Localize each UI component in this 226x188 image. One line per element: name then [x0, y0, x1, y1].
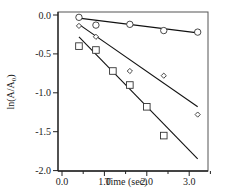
diamond-point [127, 68, 132, 73]
y-ticks: 0.0-0.5-1.0-1.5-2.0 [35, 10, 58, 177]
square-point [160, 132, 167, 139]
fit-line-squares [79, 37, 198, 159]
square-point [127, 82, 134, 89]
y-tick-label: -1.0 [35, 87, 51, 98]
square-point [110, 68, 117, 75]
fit-lines [79, 18, 198, 159]
circle-point [127, 21, 133, 27]
diamond-point [76, 23, 81, 28]
square-point [76, 43, 83, 50]
y-tick-label: 0.0 [39, 10, 52, 21]
data-points [76, 14, 201, 139]
diamond-point [195, 112, 200, 117]
x-tick-label: 3.0 [183, 176, 196, 187]
diamond-point [161, 73, 166, 78]
circle-point [76, 14, 82, 20]
circle-point [161, 27, 167, 33]
circle-point [194, 29, 200, 35]
square-point [93, 47, 100, 54]
chart: 0.0-0.5-1.0-1.5-2.0 0.01.02.03.0 Time (s… [0, 0, 226, 188]
y-tick-label: -2.0 [35, 165, 51, 176]
y-axis-label: ln(A/A0) [5, 74, 18, 109]
x-tick-label: 0.0 [56, 176, 69, 187]
x-axis-label: Time (sec) [105, 176, 148, 188]
y-tick-label: -1.5 [35, 126, 51, 137]
square-point [144, 104, 151, 111]
y-tick-label: -0.5 [35, 48, 51, 59]
circle-point [93, 22, 99, 28]
